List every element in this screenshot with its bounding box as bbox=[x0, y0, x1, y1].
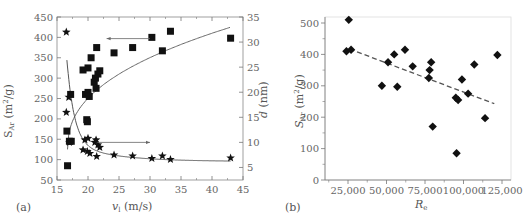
square-marker bbox=[64, 162, 71, 169]
square-marker bbox=[111, 49, 118, 56]
diamond-marker bbox=[425, 66, 433, 74]
panel-a-x-axis: 15202530354045 bbox=[51, 17, 250, 195]
left-y-tick-label: 200 bbox=[34, 113, 53, 124]
figure: 15202530354045 5010015020025030035040045… bbox=[0, 0, 532, 224]
y-tick-label: 400 bbox=[300, 49, 319, 60]
square-marker bbox=[85, 64, 92, 71]
star-marker bbox=[62, 28, 71, 36]
panel-a-surface-area-fit-line bbox=[68, 27, 231, 149]
y-tick-label: 0 bbox=[313, 175, 319, 186]
panel-a-surface-area-points bbox=[63, 28, 234, 169]
square-marker bbox=[84, 118, 91, 125]
y-tick-label: 500 bbox=[300, 18, 319, 29]
diamond-marker bbox=[458, 75, 466, 83]
left-y-tick-label: 50 bbox=[40, 175, 53, 186]
x-tick-label: 35 bbox=[175, 184, 188, 195]
right-y-tick-label: 25 bbox=[247, 62, 260, 73]
diamond-marker bbox=[481, 114, 489, 122]
left-y-tick-label: 300 bbox=[34, 73, 53, 84]
left-y-tick-label: 100 bbox=[34, 154, 53, 165]
y-tick-label: 100 bbox=[300, 143, 319, 154]
panel-b-label: (b) bbox=[285, 201, 301, 214]
diamond-marker bbox=[378, 82, 386, 90]
star-marker bbox=[166, 155, 175, 163]
square-marker bbox=[93, 44, 100, 51]
square-marker bbox=[148, 34, 155, 41]
right-y-tick-label: 5 bbox=[247, 162, 253, 173]
panel-a-plot-frame bbox=[57, 17, 243, 180]
panel-a-label: (a) bbox=[16, 201, 31, 214]
panel-b-plot-frame bbox=[325, 17, 511, 180]
diamond-marker bbox=[429, 122, 437, 130]
square-marker bbox=[159, 47, 166, 54]
left-y-tick-label: 350 bbox=[34, 52, 53, 63]
panel-b-y-axis-label: SAr (m2/g) bbox=[293, 74, 307, 128]
left-y-tick-label: 400 bbox=[34, 32, 53, 43]
x-tick-label: 75,000 bbox=[408, 185, 443, 196]
diamond-marker bbox=[470, 60, 478, 68]
panel-b-x-axis: 25,00050,00075,000100,000125,000 bbox=[329, 180, 523, 196]
square-marker bbox=[86, 93, 93, 100]
square-marker bbox=[63, 128, 70, 135]
star-marker bbox=[110, 150, 119, 158]
panel-a-right-y-axis-label: d (nm) bbox=[257, 81, 270, 118]
diamond-marker bbox=[393, 83, 401, 91]
x-tick-label: 25,000 bbox=[331, 185, 366, 196]
diamond-marker bbox=[401, 45, 409, 53]
diamond-marker bbox=[427, 58, 435, 66]
x-tick-label: 30 bbox=[144, 184, 157, 195]
diamond-marker bbox=[493, 51, 501, 59]
square-marker bbox=[88, 54, 95, 61]
star-marker bbox=[92, 152, 101, 160]
panel-a-axis-arrows bbox=[97, 37, 150, 144]
panel-a-x-axis-label: vl (m/s) bbox=[112, 200, 152, 214]
star-marker bbox=[226, 153, 235, 161]
diamond-marker bbox=[452, 149, 460, 157]
left-y-tick-label: 250 bbox=[34, 93, 53, 104]
x-tick-label: 40 bbox=[206, 184, 219, 195]
square-marker bbox=[93, 85, 100, 92]
square-marker bbox=[227, 35, 234, 42]
square-marker bbox=[167, 28, 174, 35]
x-tick-label: 50,000 bbox=[369, 185, 404, 196]
star-marker bbox=[158, 151, 167, 159]
panel-b-data-points bbox=[342, 16, 501, 158]
right-y-tick-label: 35 bbox=[247, 12, 260, 23]
right-y-tick-label: 10 bbox=[247, 137, 260, 148]
left-y-tick-label: 450 bbox=[34, 12, 53, 23]
x-tick-label: 100,000 bbox=[443, 185, 484, 196]
star-marker bbox=[62, 108, 71, 116]
panel-a-left-y-axis-label: SAr (m2/g) bbox=[2, 84, 16, 138]
panel-a-chart: 15202530354045 5010015020025030035040045… bbox=[2, 12, 270, 215]
right-y-tick-label: 30 bbox=[247, 37, 260, 48]
star-marker bbox=[128, 151, 137, 159]
panel-b-linear-fit-line bbox=[350, 49, 495, 104]
x-tick-label: 15 bbox=[51, 184, 64, 195]
panel-b-chart: 25,00050,00075,000100,000125,000 0100200… bbox=[285, 16, 523, 214]
square-marker bbox=[96, 67, 103, 74]
diamond-marker bbox=[425, 74, 433, 82]
left-y-tick-label: 150 bbox=[34, 134, 53, 145]
diamond-marker bbox=[464, 89, 472, 97]
diamond-marker bbox=[408, 62, 416, 70]
panel-a-diameter-fit-line bbox=[67, 60, 231, 161]
panel-b-x-axis-label: Re bbox=[414, 198, 427, 212]
star-marker bbox=[148, 154, 157, 162]
x-tick-label: 125,000 bbox=[481, 185, 522, 196]
x-tick-label: 20 bbox=[82, 184, 95, 195]
x-tick-label: 25 bbox=[113, 184, 126, 195]
x-tick-label: 45 bbox=[237, 184, 250, 195]
square-marker bbox=[129, 44, 136, 51]
diamond-marker bbox=[390, 50, 398, 58]
